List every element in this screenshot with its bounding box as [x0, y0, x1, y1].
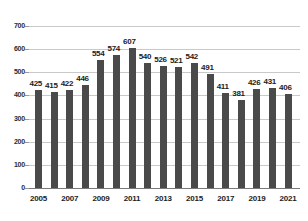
x-axis-tick-label: 2017	[217, 194, 234, 204]
x-axis-tick-label: 2011	[124, 194, 141, 204]
x-axis-tick-label: 2013	[155, 194, 172, 204]
x-axis-tick-label: 2005	[30, 194, 47, 204]
x-axis-tick-label: 2009	[92, 194, 109, 204]
bar-chart: 0100200300400500600700 42541542244655457…	[0, 0, 308, 221]
x-axis-tick-label: 2015	[186, 194, 203, 204]
x-axis-tick-label: 2007	[61, 194, 78, 204]
x-axis-tick-label: 2019	[248, 194, 265, 204]
x-axis-tick-label: 2021	[280, 194, 297, 204]
x-axis-group: 200520072009201120132015201720192021	[0, 0, 308, 221]
